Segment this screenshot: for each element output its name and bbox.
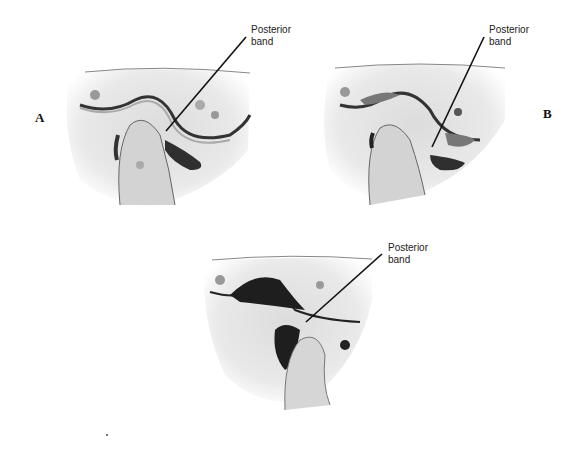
panel-a-letter: A bbox=[35, 110, 44, 126]
panel-b-letter: B bbox=[543, 106, 552, 122]
panel-b-illustration bbox=[324, 37, 505, 205]
stray-mark bbox=[106, 434, 108, 436]
panel-c-label-line1: Posterior bbox=[388, 242, 428, 254]
panel-b-label-line2: band bbox=[489, 36, 529, 48]
panel-a-illustration bbox=[67, 37, 250, 206]
illustration-canvas bbox=[0, 0, 576, 449]
panel-c-label: Posterior band bbox=[388, 242, 428, 266]
panel-c-label-line2: band bbox=[388, 254, 428, 266]
panel-a-label-line2: band bbox=[251, 36, 291, 48]
panel-a-label: Posterior band bbox=[251, 24, 291, 48]
panel-a-label-line1: Posterior bbox=[251, 24, 291, 36]
panel-b-label: Posterior band bbox=[489, 24, 529, 48]
panel-c-illustration bbox=[204, 254, 382, 410]
panel-b-label-line1: Posterior bbox=[489, 24, 529, 36]
